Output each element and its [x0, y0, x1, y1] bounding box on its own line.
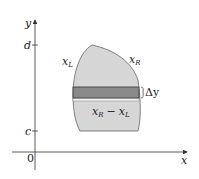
x-axis-label: x [181, 154, 188, 167]
left-boundary-label: xL [62, 55, 73, 69]
tick-label-d: d [24, 39, 31, 52]
tick-label-c: c [25, 125, 31, 138]
delta-y-brace [141, 87, 143, 98]
right-boundary-label: xR [129, 53, 141, 67]
origin-label: 0 [27, 152, 34, 165]
strip-gap [73, 98, 139, 101]
y-axis-label: y [24, 17, 32, 30]
horizontal-strip-area-diagram: y x 0 d c xL xR Δy xR−xL [0, 0, 199, 179]
delta-y-label: Δy [145, 86, 160, 99]
strip-width-label: xR−xL [92, 105, 130, 119]
horizontal-strip [73, 87, 139, 98]
